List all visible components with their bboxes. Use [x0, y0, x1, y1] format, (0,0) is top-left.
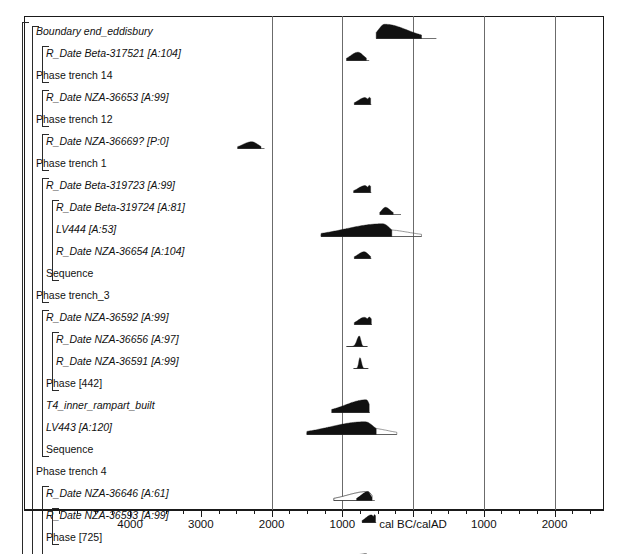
bracket-group: [52, 332, 53, 390]
x-tick-label: 3000: [188, 518, 214, 530]
bracket-group: [42, 134, 43, 170]
bracket-group-bottom: [52, 280, 59, 281]
oxcal-plot: { "chart_data": { "type": "area", "title…: [0, 0, 627, 554]
x-tick-label: 2000: [259, 518, 285, 530]
bracket-group: [42, 310, 43, 456]
minor-tick: [590, 510, 591, 514]
x-tick-label: 2000: [542, 518, 568, 530]
minor-tick: [325, 510, 326, 514]
minor-tick: [537, 510, 538, 514]
bracket-group-bottom: [42, 82, 49, 83]
row-label-phase: Phase trench 4: [36, 460, 107, 482]
row-label-date: R_Date NZA-36591 [A:99]: [56, 350, 179, 372]
plot-row[interactable]: Phase [442]: [0, 372, 627, 394]
minor-tick: [166, 510, 167, 514]
minor-tick: [307, 510, 308, 514]
plot-row[interactable]: LV443 [A:120]: [0, 416, 627, 438]
plot-row[interactable]: R_Date NZA-36656 [A:97]: [0, 328, 627, 350]
minor-tick: [519, 510, 520, 514]
minor-tick: [254, 510, 255, 514]
bracket-group-bottom: [42, 126, 49, 127]
plot-row[interactable]: Boundary end_eddisbury: [0, 20, 627, 42]
bracket-group-top: [42, 46, 49, 47]
bracket-group: [42, 486, 43, 554]
bracket-group: [42, 178, 43, 302]
bracket-group-top: [42, 486, 49, 487]
plot-row[interactable]: R_Date NZA-36654 [A:104]: [0, 240, 627, 262]
x-axis-title: cal BC/calAD: [379, 518, 447, 530]
plot-row[interactable]: Phase [725]: [0, 526, 627, 548]
bracket-group-top: [42, 90, 49, 91]
plot-row[interactable]: T7_inner_rampart_built: [0, 548, 627, 554]
minor-tick: [112, 510, 113, 514]
minor-tick: [183, 510, 184, 514]
plot-row[interactable]: Phase trench 12: [0, 108, 627, 130]
plot-row[interactable]: Sequence: [0, 438, 627, 460]
x-tick-label: 1000: [330, 518, 356, 530]
bracket-group-top: [52, 200, 59, 201]
plot-row[interactable]: Phase trench_3: [0, 284, 627, 306]
major-tick: [130, 510, 131, 517]
row-label-date: R_Date NZA-36654 [A:104]: [56, 240, 184, 262]
plot-row[interactable]: LV444 [A:53]: [0, 218, 627, 240]
row-list: Boundary end_eddisburyR_Date Beta-317521…: [0, 16, 627, 510]
minor-tick: [431, 510, 432, 514]
plot-row[interactable]: Phase trench 1: [0, 152, 627, 174]
major-tick: [413, 510, 414, 517]
bracket-group-top: [42, 134, 49, 135]
row-label-date: R_Date NZA-36669? [P:0]: [46, 130, 169, 152]
plot-row[interactable]: Sequence: [0, 262, 627, 284]
plot-row[interactable]: R_Date Beta-319723 [A:99]: [0, 174, 627, 196]
minor-tick: [77, 510, 78, 514]
row-label-date: R_Date NZA-36593 [A:99]: [46, 504, 169, 526]
plot-row[interactable]: Phase trench 4: [0, 460, 627, 482]
row-label-lv: LV443 [A:120]: [46, 416, 112, 438]
plot-row[interactable]: R_Date NZA-36646 [A:61]: [0, 482, 627, 504]
minor-tick: [59, 510, 60, 514]
bracket-group: [52, 508, 53, 544]
minor-tick: [219, 510, 220, 514]
row-label-date: R_Date Beta-319724 [A:81]: [56, 196, 185, 218]
row-label-date: R_Date NZA-36656 [A:97]: [56, 328, 179, 350]
minor-tick: [395, 510, 396, 514]
row-label-lv: LV444 [A:53]: [56, 218, 116, 240]
bracket-group: [52, 200, 53, 280]
bracket-group-top: [52, 332, 59, 333]
row-label-date: R_Date NZA-36646 [A:61]: [46, 482, 169, 504]
bracket-group-top: [42, 178, 49, 179]
minor-tick: [148, 510, 149, 514]
bracket-group: [42, 90, 43, 126]
x-axis-line: [24, 510, 604, 511]
bracket-group-top: [52, 508, 59, 509]
major-tick: [272, 510, 273, 517]
bracket-group-bottom: [52, 544, 59, 545]
row-label-boundary: Boundary end_eddisbury: [36, 20, 153, 42]
major-tick: [201, 510, 202, 517]
bracket-top-outer: [22, 22, 29, 23]
plot-row[interactable]: R_Date NZA-36592 [A:99]: [0, 306, 627, 328]
bracket-group-bottom: [42, 170, 49, 171]
plot-row[interactable]: R_Date NZA-36593 [A:99]: [0, 504, 627, 526]
plot-row[interactable]: R_Date Beta-319724 [A:81]: [0, 196, 627, 218]
minor-tick: [42, 510, 43, 514]
minor-tick: [572, 510, 573, 514]
bracket-top-eddisbury: [32, 26, 39, 27]
plot-row[interactable]: R_Date Beta-317521 [A:104]: [0, 42, 627, 64]
minor-tick: [378, 510, 379, 514]
bracket-sequence-outer: [22, 22, 23, 554]
row-label-date: R_Date NZA-36653 [A:99]: [46, 86, 169, 108]
minor-tick: [360, 510, 361, 514]
row-label-date: R_Date Beta-319723 [A:99]: [46, 174, 175, 196]
plot-row[interactable]: Phase trench 14: [0, 64, 627, 86]
plot-row[interactable]: R_Date NZA-36669? [P:0]: [0, 130, 627, 152]
minor-tick: [448, 510, 449, 514]
plot-row[interactable]: R_Date NZA-36591 [A:99]: [0, 350, 627, 372]
minor-tick: [95, 510, 96, 514]
minor-tick: [466, 510, 467, 514]
row-label-event: T4_inner_rampart_built: [46, 394, 155, 416]
minor-tick: [501, 510, 502, 514]
plot-row[interactable]: R_Date NZA-36653 [A:99]: [0, 86, 627, 108]
row-label-event: T7_inner_rampart_built: [46, 548, 155, 554]
row-label-date: R_Date NZA-36592 [A:99]: [46, 306, 169, 328]
plot-row[interactable]: T4_inner_rampart_built: [0, 394, 627, 416]
